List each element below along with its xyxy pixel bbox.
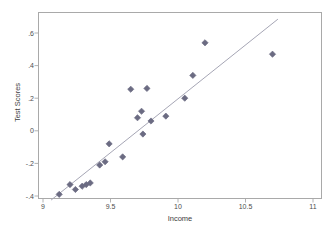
- axis-tick-marks: [35, 33, 314, 203]
- data-point-marker: [182, 95, 188, 101]
- data-point-marker: [120, 154, 126, 160]
- data-point-marker: [140, 131, 146, 137]
- data-point-marker: [106, 141, 112, 147]
- data-point-marker: [128, 86, 134, 92]
- fit-line-segment: [51, 19, 278, 200]
- data-point-marker: [102, 159, 108, 165]
- x-tick-label: 10.5: [231, 203, 261, 210]
- x-tick-label: 10: [163, 203, 193, 210]
- data-point-marker: [190, 72, 196, 78]
- data-point-markers: [56, 40, 276, 198]
- data-point-marker: [144, 85, 150, 91]
- y-axis-title: Test Scores: [13, 58, 22, 148]
- y-tick-label: .6: [10, 30, 34, 37]
- plot-graphics-layer: [0, 0, 335, 234]
- x-tick-label: 9.5: [96, 203, 126, 210]
- data-point-marker: [269, 51, 275, 57]
- x-axis-title: Income: [38, 214, 322, 223]
- y-tick-label: -.4: [10, 193, 34, 200]
- y-tick-label: -.2: [10, 160, 34, 167]
- scatter-plot-figure: .6.4.20-.2-.4 99.51010.511 Income Test S…: [0, 0, 335, 234]
- data-point-marker: [72, 186, 78, 192]
- x-tick-label: 11: [298, 203, 328, 210]
- data-point-marker: [134, 115, 140, 121]
- fit-line: [51, 19, 278, 200]
- x-tick-label: 9: [28, 203, 58, 210]
- data-point-marker: [202, 40, 208, 46]
- data-point-marker: [138, 108, 144, 114]
- data-point-marker: [163, 113, 169, 119]
